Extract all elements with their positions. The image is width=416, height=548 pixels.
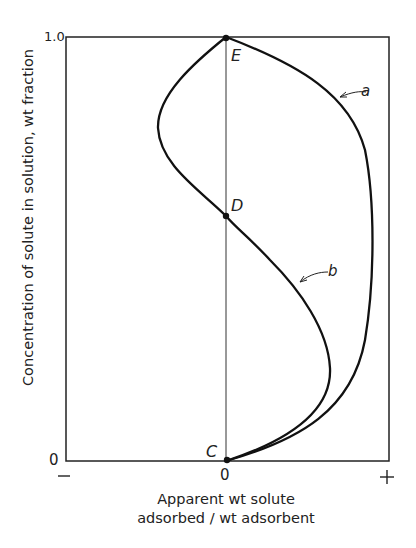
x-axis-title-line1: Apparent wt solute <box>96 490 356 509</box>
curve-a-label: a <box>361 82 370 100</box>
x-axis-title: Apparent wt solute adsorbed / wt adsorbe… <box>96 490 356 528</box>
point-d-marker <box>223 213 229 219</box>
point-c-label: C <box>206 442 217 461</box>
point-e-marker <box>223 35 229 41</box>
chart-canvas <box>0 0 416 548</box>
point-e-label: E <box>231 46 241 65</box>
y-tick-bottom: 0 <box>49 451 59 469</box>
curve-b-label: b <box>328 262 338 280</box>
y-axis-title: Concentration of solute in solution, wt … <box>20 106 36 386</box>
x-axis-title-line2: adsorbed / wt adsorbent <box>96 509 356 528</box>
curve-b <box>158 37 330 461</box>
point-d-label: D <box>231 196 243 215</box>
x-tick-zero: 0 <box>220 466 230 484</box>
point-c-marker <box>224 457 230 463</box>
curve-a <box>226 37 373 461</box>
y-tick-top: 1.0 <box>44 29 65 44</box>
